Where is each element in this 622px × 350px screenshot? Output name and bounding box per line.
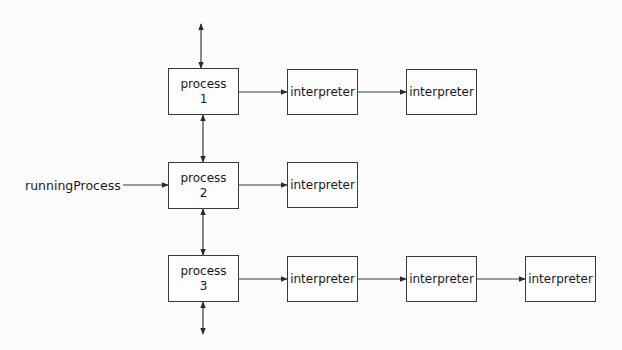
process-box-2: process 2: [168, 162, 239, 209]
interpreter-box-3-1: interpreter: [287, 256, 358, 302]
interpreter-label: interpreter: [409, 85, 474, 100]
interpreter-label: interpreter: [290, 272, 355, 287]
interpreter-label: interpreter: [528, 272, 593, 287]
process-number: 2: [200, 186, 208, 201]
interpreter-label: interpreter: [290, 178, 355, 193]
interpreter-box-1-1: interpreter: [287, 69, 358, 115]
process-box-1: process 1: [168, 68, 239, 115]
process-title: process: [180, 77, 226, 92]
interpreter-box-1-2: interpreter: [406, 69, 477, 115]
process-chain-diagram: runningProcess process 1 process 2 proce…: [0, 0, 622, 350]
process-number: 3: [200, 279, 208, 294]
interpreter-label: interpreter: [290, 85, 355, 100]
interpreter-box-2-1: interpreter: [287, 162, 358, 208]
interpreter-label: interpreter: [409, 272, 474, 287]
interpreter-box-3-3: interpreter: [525, 256, 596, 302]
interpreter-box-3-2: interpreter: [406, 256, 477, 302]
process-title: process: [180, 171, 226, 186]
process-box-3: process 3: [168, 255, 239, 302]
process-title: process: [180, 264, 226, 279]
running-process-label: runningProcess: [25, 178, 121, 193]
process-number: 1: [200, 92, 208, 107]
